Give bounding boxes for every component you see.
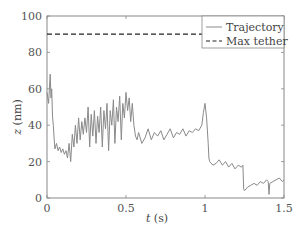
x-tick-label: 0.5 <box>117 202 135 215</box>
svg-text:t (s): t (s) <box>146 212 168 225</box>
svg-text:z (nm): z (nm) <box>11 99 24 135</box>
legend-trajectory-label: Trajectory <box>226 21 285 34</box>
y-tick-label: 0 <box>35 192 42 205</box>
y-axis-label: z (nm) <box>11 99 24 135</box>
y-tick-label: 60 <box>28 83 42 96</box>
x-tick-label: 0 <box>44 202 51 215</box>
trajectory-line <box>47 74 284 194</box>
y-axis-unit: (nm) <box>11 99 24 129</box>
y-tick-label: 20 <box>28 156 42 169</box>
y-tick-label: 40 <box>28 119 42 132</box>
x-axis-label: t (s) <box>146 212 168 225</box>
legend-max-tether-label: Max tether <box>226 35 288 48</box>
trajectory-chart: 020406080100 00.511.5 t (s) z (nm) Traje… <box>0 0 303 235</box>
x-tick-label: 1.5 <box>275 202 293 215</box>
y-tick-label: 80 <box>28 46 42 59</box>
x-axis-unit: (s) <box>150 212 168 225</box>
x-tick-label: 1 <box>202 202 209 215</box>
legend: Trajectory Max tether <box>202 16 288 48</box>
y-tick-label: 100 <box>21 10 42 23</box>
